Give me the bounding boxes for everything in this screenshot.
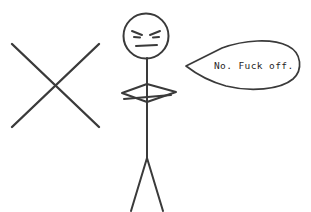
left-eye-stroke bbox=[134, 37, 140, 38]
stick-figure-illustration: No. Fuck off. bbox=[0, 0, 311, 212]
mouth-stroke bbox=[136, 45, 157, 46]
drawing-canvas: No. Fuck off. bbox=[0, 0, 311, 212]
speech-bubble-text: No. Fuck off. bbox=[214, 60, 294, 71]
right-eye-stroke bbox=[153, 37, 159, 38]
